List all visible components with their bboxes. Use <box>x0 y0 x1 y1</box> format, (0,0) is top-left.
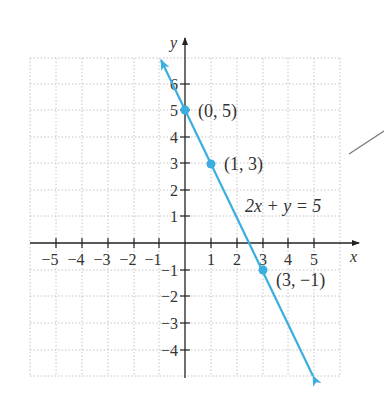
x-tick-label: 5 <box>310 251 318 268</box>
coordinate-plane: −5 −4 −3 −2 −1 1 2 3 4 5 x 6 5 4 3 2 1 −… <box>0 0 384 401</box>
x-tick-label: −5 <box>41 251 58 268</box>
x-tick-label: 1 <box>207 251 215 268</box>
x-tick-label: 4 <box>284 251 292 268</box>
pointer-line <box>349 131 384 154</box>
x-tick-label: −1 <box>144 251 161 268</box>
point-label-0-5: (0, 5) <box>198 101 237 122</box>
x-tick-label: 2 <box>233 251 241 268</box>
y-tick-labels: 6 5 4 3 2 1 −1 −2 −3 −4 <box>161 76 178 359</box>
equation-label: 2x + y = 5 <box>245 196 321 216</box>
point-label-1-3: (1, 3) <box>224 154 263 175</box>
y-tick-label: −4 <box>161 342 178 359</box>
y-tick-label: −1 <box>161 262 178 279</box>
y-tick-label: 2 <box>170 182 178 199</box>
x-tick-label: −2 <box>119 251 136 268</box>
x-tick-label: −3 <box>93 251 110 268</box>
y-tick-label: 4 <box>170 129 178 146</box>
x-tick-label: −4 <box>67 251 84 268</box>
y-axis-label: y <box>168 34 178 52</box>
y-tick-label: −2 <box>161 288 178 305</box>
y-tick-label: 3 <box>170 155 178 172</box>
x-tick-labels: −5 −4 −3 −2 −1 1 2 3 4 5 <box>41 251 318 268</box>
y-tick-label: 5 <box>170 102 178 119</box>
y-tick-label: 1 <box>170 208 178 225</box>
y-tick-label: −3 <box>161 315 178 332</box>
point-3-neg1 <box>259 266 268 275</box>
point-1-3 <box>207 160 216 169</box>
point-label-3-neg1: (3, −1) <box>276 270 325 291</box>
point-0-5 <box>181 106 190 115</box>
x-axis-label: x <box>349 248 357 265</box>
